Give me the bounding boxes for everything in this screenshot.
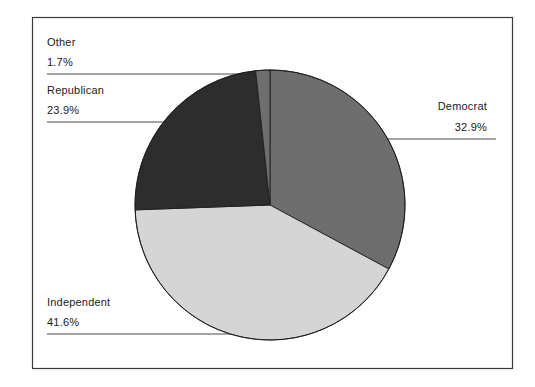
pie-label-democrat-value: 32.9% [455,121,487,133]
pie-label-independent-value: 41.6% [47,316,79,328]
pie-label-other-value: 1.7% [47,56,73,68]
pie-label-independent-name: Independent [47,296,110,308]
pie-chart-canvas [0,0,535,387]
pie-label-other-name: Other [47,36,76,48]
pie-label-democrat-name: Democrat [438,100,487,112]
pie-label-republican-value: 23.9% [47,104,79,116]
pie-label-republican-name: Republican [47,84,104,96]
pie-chart-figure: Other 1.7% Republican 23.9% Independent … [0,0,535,387]
